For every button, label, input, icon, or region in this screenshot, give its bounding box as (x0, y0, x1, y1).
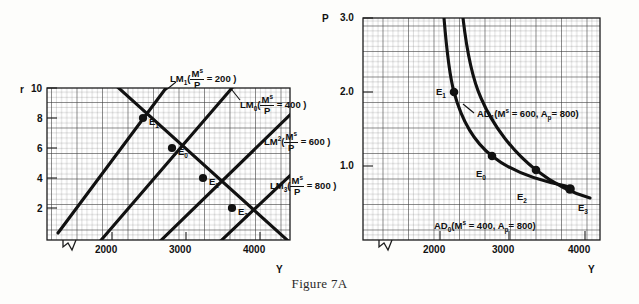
right-chart-x-tick-3000: 3000 (492, 245, 514, 255)
right-chart-y-tick-3: 3.0 (340, 13, 354, 23)
left-chart-x-tick-2000: 2000 (95, 245, 117, 255)
right-chart-x-tick-2000: 2000 (423, 245, 445, 255)
point-e3-left (228, 204, 236, 212)
curve-label-ad1-ap-value: 800 (560, 108, 576, 119)
equilibrium-label-e1-left-sub: 1 (155, 122, 159, 129)
right-chart-y-axis-name: P (322, 13, 329, 24)
curve-label-lm0-value: 400 (285, 99, 301, 110)
curve-label-ad0-ap-value: 800 (517, 220, 533, 231)
equilibrium-label-e0-left-sub: 0 (184, 152, 188, 159)
point-e3-right (565, 184, 575, 194)
curve-label-ad0-name: AD (434, 220, 448, 231)
equilibrium-label-e1-right: E1 (436, 87, 446, 99)
curve-label-lm0-name: LM (240, 99, 254, 110)
curve-label-ad0-ms-sup: s (462, 219, 466, 226)
curve-label-lm2: LM2(MsP = 600 ) (264, 132, 331, 153)
left-chart-y-tick-10: 10 (31, 84, 42, 94)
curve-label-lm1-denominator: P (190, 80, 204, 90)
figure-caption: Figure 7A (0, 276, 639, 292)
curve-label-lm3-value: 800 (315, 180, 331, 191)
curve-label-ad1: AD1(Ms = 600, Ap= 800) (477, 108, 579, 122)
right-chart-x-axis-name: Y (588, 264, 595, 275)
equilibrium-label-e2-left: E2 (209, 177, 219, 189)
curve-label-lm3: LM3(MsP = 800 ) (270, 176, 337, 197)
curve-label-ad0-sub: 0 (448, 226, 452, 233)
right-axis-break-icon (379, 240, 392, 250)
point-e0-right (488, 152, 497, 161)
curve-label-ad1-sub: 1 (491, 114, 495, 121)
curve-label-ad0-ap: A (498, 220, 505, 231)
curve-label-lm0-denominator: P (260, 106, 274, 116)
curve-label-lm1: LM1(MsP = 200 ) (170, 69, 237, 90)
curve-label-lm0-sub: 0 (254, 105, 258, 112)
left-chart-y-tick-8: 8 (37, 114, 43, 124)
left-chart-y-tick-4: 4 (37, 174, 43, 184)
point-e0-left (168, 144, 176, 152)
curve-label-lm0: LM0(MsP = 400 ) (240, 95, 307, 116)
left-chart-x-axis-name: Y (276, 264, 283, 275)
curve-label-ad1-name: AD (477, 108, 491, 119)
curve-label-lm1-num-sup: s (199, 67, 203, 74)
curve-label-lm3-sub: 3 (284, 186, 288, 193)
curve-label-ad0-ms-value: 400 (477, 220, 493, 231)
equilibrium-label-e1-left: E1 (149, 117, 159, 129)
equilibrium-label-e0-left: E0 (178, 147, 188, 159)
equilibrium-label-e3-left: E3 (238, 207, 248, 219)
curve-label-ad1-ms-value: 600 (520, 108, 536, 119)
figure-7a: r Y 10 8 6 4 2 2000 3000 4000 LM1(MsP = … (0, 0, 639, 304)
right-chart-y-tick-2: 2.0 (340, 87, 354, 97)
curve-label-lm2-denominator: P (284, 143, 298, 153)
curve-label-lm2-sup: 2 (278, 135, 282, 142)
left-chart-x-tick-4000: 4000 (243, 245, 265, 255)
equilibrium-label-e2-right-sub: 2 (523, 197, 527, 204)
curve-label-ad1-ap: A (541, 108, 548, 119)
point-e1-right (450, 88, 459, 97)
left-chart-x-tick-3000: 3000 (169, 245, 191, 255)
curve-label-ad1-ms-sup: s (505, 107, 509, 114)
curve-label-lm2-num-sup: s (293, 130, 297, 137)
equilibrium-label-e2-left-sub: 2 (215, 182, 219, 189)
curve-label-ad0: AD0(Ms = 400, Ap= 800) (434, 220, 536, 234)
equilibrium-label-e0-right: E0 (476, 169, 486, 181)
point-e1-left (139, 114, 147, 122)
curve-label-ad1-ap-sub: p (548, 114, 552, 121)
right-chart-grid (363, 18, 600, 240)
left-chart-y-axis-name: r (20, 84, 24, 95)
equilibrium-label-e3-right-sub: 3 (584, 208, 588, 215)
curve-label-lm0-num-sup: s (269, 93, 273, 100)
point-e2-left (199, 174, 207, 182)
equilibrium-label-e2-right: E2 (517, 192, 527, 204)
right-chart-y-tick-1: 1.0 (340, 161, 354, 171)
equilibrium-label-e3-right: E3 (578, 203, 588, 215)
curve-label-lm1-name: LM (170, 73, 184, 84)
curve-label-lm3-denominator: P (290, 187, 304, 197)
curve-label-lm2-value: 600 (309, 136, 325, 147)
point-e2-right (532, 166, 541, 175)
curve-label-ad0-ap-sub: p (505, 226, 509, 233)
curve-label-lm2-name: LM (264, 136, 278, 147)
equilibrium-label-e3-left-sub: 3 (244, 212, 248, 219)
left-chart-y-tick-2: 2 (37, 204, 43, 214)
equilibrium-label-e0-right-sub: 0 (482, 174, 486, 181)
curve-label-lm1-value: 200 (215, 73, 231, 84)
curve-label-lm3-num-sup: s (299, 174, 303, 181)
curve-label-lm3-name: LM (270, 180, 284, 191)
curve-label-lm1-sub: 1 (184, 79, 188, 86)
equilibrium-label-e1-right-sub: 1 (442, 92, 446, 99)
left-chart-y-tick-6: 6 (37, 144, 43, 154)
left-axis-break-icon (63, 240, 76, 250)
right-chart-x-tick-4000: 4000 (568, 245, 590, 255)
